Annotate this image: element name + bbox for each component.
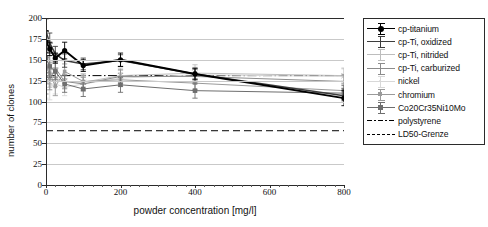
legend-marker-square-small-icon — [367, 88, 395, 101]
legend-item[interactable]: polystyrene — [367, 114, 482, 127]
legend-item-label: nickel — [395, 76, 419, 86]
x-tick-label: 200 — [114, 188, 128, 197]
chart-legend: cp-titaniumcp-Ti, oxidizedcp-Ti, nitride… — [363, 18, 485, 145]
legend-item[interactable]: nickel — [367, 75, 482, 88]
x-tick-mark-minor — [93, 185, 94, 187]
y-tick-mark — [42, 164, 46, 165]
legend-marker-dash-icon — [367, 62, 395, 75]
legend-item[interactable]: cp-titanium — [367, 22, 482, 35]
legend-item[interactable]: LD50-Grenze — [367, 128, 482, 141]
y-tick-mark — [42, 39, 46, 40]
x-tick-mark-minor — [335, 185, 336, 187]
legend-item-label: cp-Ti, oxidized — [395, 37, 452, 47]
legend-marker-cross-icon — [367, 48, 395, 61]
y-tick-mark — [42, 18, 46, 19]
y-tick-mark — [42, 81, 46, 82]
legend-marker-dot-icon — [367, 75, 395, 88]
x-tick-mark-minor — [260, 185, 261, 187]
y-axis-tick-labels: 200 175 150 125 100 75 50 25 0 — [0, 0, 42, 200]
legend-item-label: cp-Ti, carburized — [395, 63, 460, 73]
y-tick-label: 200 — [0, 14, 42, 23]
legend-item[interactable]: Co20Cr35Ni10Mo — [367, 101, 482, 114]
x-tick-label: 800 — [337, 188, 351, 197]
x-tick-mark-minor — [148, 185, 149, 187]
x-tick-mark-minor — [325, 185, 326, 187]
y-tick-mark — [42, 122, 46, 123]
y-tick-label: 175 — [0, 34, 42, 43]
chart-screenshot: number of clones 200 175 150 125 100 75 … — [0, 0, 488, 227]
gridline — [46, 143, 344, 144]
x-tick-label: 600 — [263, 188, 277, 197]
legend-item[interactable]: cp-Ti, nitrided — [367, 48, 482, 61]
x-tick-mark-minor — [288, 185, 289, 187]
legend-item-label: Co20Cr35Ni10Mo — [395, 103, 465, 113]
y-tick-label: 75 — [0, 118, 42, 127]
x-tick-mark-minor — [176, 185, 177, 187]
x-tick-mark-minor — [74, 185, 75, 187]
x-tick-mark-minor — [242, 185, 243, 187]
legend-item-label: chromium — [395, 90, 435, 100]
x-tick-mark-minor — [158, 185, 159, 187]
gridline — [46, 39, 344, 40]
x-tick-mark-minor — [251, 185, 252, 187]
x-tick-mark-minor — [232, 185, 233, 187]
cropped-title-remnant — [20, 1, 190, 9]
x-tick-label: 0 — [44, 188, 49, 197]
gridline — [46, 60, 344, 61]
x-tick-mark-minor — [65, 185, 66, 187]
legend-item-label: LD50-Grenze — [395, 129, 449, 139]
y-tick-label: 50 — [0, 139, 42, 148]
x-axis-tick-labels: 0 200 400 600 800 — [0, 188, 360, 202]
x-tick-mark-minor — [167, 185, 168, 187]
gridline — [46, 164, 344, 165]
y-tick-label: 25 — [0, 160, 42, 169]
y-tick-label: 100 — [0, 97, 42, 106]
x-tick-mark-minor — [316, 185, 317, 187]
x-tick-label: 400 — [188, 188, 202, 197]
legend-marker-square-filled-icon — [367, 101, 395, 114]
x-tick-mark-minor — [279, 185, 280, 187]
plot-frame-top — [46, 18, 344, 19]
legend-marker-circle-filled-icon — [367, 22, 395, 35]
legend-marker-dashed-line-icon — [367, 128, 395, 141]
x-tick-mark-minor — [55, 185, 56, 187]
x-tick-mark-minor — [186, 185, 187, 187]
gridline — [46, 81, 344, 82]
x-tick-mark-minor — [83, 185, 84, 187]
plot-frame-left — [46, 18, 47, 185]
x-tick-mark-minor — [111, 185, 112, 187]
x-tick-mark-minor — [130, 185, 131, 187]
x-axis-label: powder concentration [mg/l] — [45, 205, 345, 216]
x-tick-mark-minor — [102, 185, 103, 187]
legend-item-label: polystyrene — [395, 116, 441, 126]
gridline — [46, 122, 344, 123]
x-tick-mark-minor — [214, 185, 215, 187]
x-tick-mark-minor — [139, 185, 140, 187]
y-tick-label: 150 — [0, 55, 42, 64]
x-tick-mark-minor — [307, 185, 308, 187]
y-tick-mark — [42, 60, 46, 61]
y-tick-label: 125 — [0, 76, 42, 85]
x-tick-mark-minor — [297, 185, 298, 187]
legend-marker-plus-icon — [367, 35, 395, 48]
legend-marker-dash-dot-line-icon — [367, 114, 395, 127]
legend-item[interactable]: cp-Ti, oxidized — [367, 35, 482, 48]
y-tick-mark — [42, 143, 46, 144]
legend-item-label: cp-titanium — [395, 24, 439, 34]
legend-item-label: cp-Ti, nitrided — [395, 50, 448, 60]
gridline — [46, 102, 344, 103]
x-tick-mark-minor — [204, 185, 205, 187]
legend-item[interactable]: cp-Ti, carburized — [367, 62, 482, 75]
legend-item[interactable]: chromium — [367, 88, 482, 101]
plot-area — [46, 18, 344, 185]
y-tick-mark — [42, 102, 46, 103]
x-tick-mark-minor — [223, 185, 224, 187]
